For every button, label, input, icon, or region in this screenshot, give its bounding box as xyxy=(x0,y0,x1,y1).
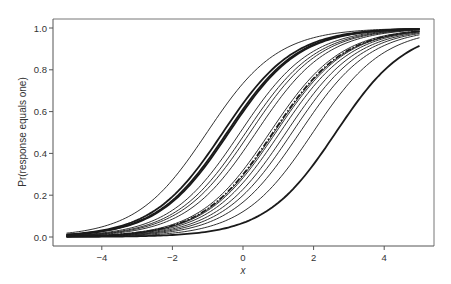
x-axis-label: x xyxy=(240,265,247,276)
probability-curve xyxy=(67,34,420,237)
plot-frame xyxy=(53,19,434,246)
probability-curve xyxy=(67,31,420,236)
y-tick-label: 0.8 xyxy=(34,64,47,75)
x-axis: −4−2024 xyxy=(96,246,386,263)
probability-curve xyxy=(67,29,420,235)
average-curve xyxy=(67,31,420,236)
y-axis-label: Pr(response equals one) xyxy=(17,77,28,187)
probability-curve xyxy=(67,33,420,237)
probability-curve xyxy=(67,29,420,235)
probability-curve xyxy=(67,32,420,237)
y-axis: 0.00.20.40.60.81.0 xyxy=(34,23,53,243)
y-tick-label: 0.2 xyxy=(34,190,47,201)
probability-curve xyxy=(67,30,420,236)
x-tick-label: −2 xyxy=(167,252,178,263)
probability-curve xyxy=(67,30,420,236)
y-tick-label: 0.6 xyxy=(34,106,47,117)
x-tick-label: 0 xyxy=(240,252,245,263)
x-tick-label: 4 xyxy=(382,252,387,263)
probability-curve xyxy=(67,46,420,237)
y-tick-label: 0.0 xyxy=(34,232,47,243)
probability-curve xyxy=(67,30,420,236)
y-tick-label: 1.0 xyxy=(34,23,47,34)
probability-curve xyxy=(67,32,420,237)
probability-curve xyxy=(67,31,420,236)
x-tick-label: 2 xyxy=(311,252,316,263)
curves xyxy=(67,29,420,237)
y-tick-label: 0.4 xyxy=(34,148,47,159)
x-tick-label: −4 xyxy=(96,252,107,263)
logistic-curves-chart: 0.00.20.40.60.81.0 −4−2024 x Pr(response… xyxy=(0,0,451,284)
probability-curve xyxy=(67,29,420,235)
probability-curve xyxy=(67,29,420,235)
